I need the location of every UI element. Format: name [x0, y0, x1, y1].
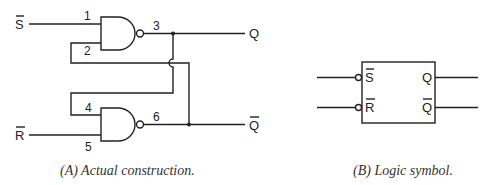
caption-a: (A) Actual construction.	[60, 163, 195, 179]
pin-4-label: 4	[85, 101, 92, 115]
pin-6-label: 6	[153, 110, 160, 124]
pin-2-label: 2	[84, 44, 91, 58]
inversion-bubble-lower	[137, 121, 144, 128]
reset-bar-label: R	[365, 100, 374, 115]
q-output-label: Q	[249, 26, 259, 41]
nand-gate-lower	[101, 108, 135, 141]
panel-a-actual-construction: S 1 3 Q 2 4 6 Q R 5 (A) Actual construct…	[15, 9, 259, 179]
caption-b: (B) Logic symbol.	[353, 163, 453, 179]
set-bar-label: S	[15, 17, 24, 32]
pin-3-label: 3	[153, 19, 160, 33]
pin-1-label: 1	[84, 9, 91, 23]
junction-qbar	[187, 123, 191, 127]
q-output-label: Q	[422, 70, 432, 85]
inversion-bubble-upper	[137, 30, 144, 37]
inversion-bubble-reset	[356, 105, 362, 111]
set-bar-label: S	[365, 70, 374, 85]
panel-b-logic-symbol: S R Q Q (B) Logic symbol.	[317, 62, 478, 179]
nand-gate-upper	[101, 17, 135, 50]
latch-diagram: S 1 3 Q 2 4 6 Q R 5 (A) Actual construct…	[0, 0, 490, 185]
qbar-output-label: Q	[422, 100, 432, 115]
reset-bar-label: R	[15, 128, 24, 143]
inversion-bubble-set	[356, 75, 362, 81]
pin-5-label: 5	[85, 140, 92, 154]
qbar-output-label: Q	[249, 118, 259, 133]
